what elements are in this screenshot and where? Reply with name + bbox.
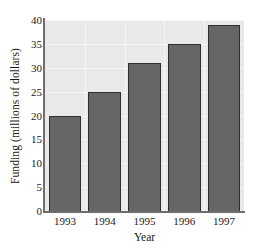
gridline-vertical	[164, 20, 165, 211]
y-tick-label: 40	[18, 15, 42, 26]
x-tick-label-1997: 1997	[204, 214, 244, 228]
plot-area	[45, 20, 244, 211]
x-tick-label-1994: 1994	[85, 214, 125, 228]
y-tick-label: 5	[18, 182, 42, 193]
y-tick-label: 10	[18, 158, 42, 169]
gridline-horizontal	[45, 20, 244, 21]
y-axis-tick-labels: 0510152025303540	[18, 14, 42, 217]
x-axis-tick-labels: 19931994199519961997	[45, 214, 244, 230]
gridline-vertical	[125, 20, 126, 211]
y-tick-label: 25	[18, 87, 42, 98]
x-tick-label-1996: 1996	[164, 214, 204, 228]
y-tick-label: 15	[18, 134, 42, 145]
x-tick-label-1993: 1993	[45, 214, 85, 228]
y-tick-label: 0	[18, 206, 42, 217]
bar-1997	[208, 25, 241, 211]
bar-chart-figure: Funding (millions of dollars) 0510152025…	[0, 0, 263, 250]
bar-1993	[49, 116, 82, 212]
bar-1996	[168, 44, 201, 211]
y-tick-label: 30	[18, 63, 42, 74]
y-tick-label: 20	[18, 111, 42, 122]
bar-1995	[128, 63, 161, 211]
x-axis-title: Year	[45, 231, 244, 243]
x-axis-line	[43, 211, 245, 213]
bar-1994	[88, 92, 121, 211]
gridline-vertical	[204, 20, 205, 211]
x-tick-label-1995: 1995	[125, 214, 165, 228]
y-tick-label: 35	[18, 39, 42, 50]
gridline-vertical	[85, 20, 86, 211]
